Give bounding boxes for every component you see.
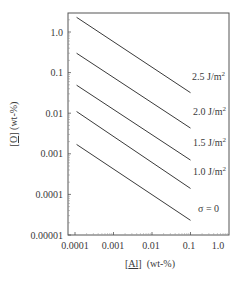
y-tick-label: 1.0 [51, 27, 64, 38]
y-tick-label: 0.001 [41, 148, 64, 159]
y-tick-label: 0.01 [46, 108, 64, 119]
x-tick-label: 0.01 [142, 240, 160, 251]
y-axis-tick-labels: 1.00.10.010.0010.00010.00001 [31, 27, 72, 241]
series-labels: 2.5 J/m22.0 J/m21.5 J/m21.0 J/m2σ = 0 [192, 70, 226, 214]
y-tick-label: 0.00001 [31, 230, 64, 241]
y-axis-title: [O] (wt-%) [8, 102, 20, 147]
x-tick-label: 0.0001 [61, 240, 89, 251]
x-tick-label: 0.001 [102, 240, 125, 251]
series-line [77, 53, 191, 128]
series-label: σ = 0 [198, 203, 219, 214]
y-tick-label: 0.1 [51, 67, 64, 78]
series-label: 2.5 J/m2 [192, 70, 225, 82]
x-axis-title: [Al] (wt-%) [125, 258, 175, 270]
series-label: 1.0 J/m2 [193, 165, 226, 177]
series-label: 1.5 J/m2 [193, 136, 226, 148]
series-line [77, 144, 191, 220]
series-line [77, 17, 191, 92]
x-tick-label: 1.0 [212, 240, 225, 251]
plot-frame [68, 13, 229, 235]
series-lines [77, 17, 191, 220]
log-log-line-chart: 1.00.10.010.0010.00010.00001 0.00010.001… [0, 0, 237, 281]
series-label: 2.0 J/m2 [193, 105, 226, 117]
x-tick-label: 0.1 [183, 240, 196, 251]
y-tick-label: 0.0001 [36, 189, 64, 200]
